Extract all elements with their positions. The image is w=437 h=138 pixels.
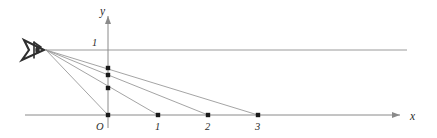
projected-point-x1	[106, 86, 110, 90]
ray-to-x1	[46, 50, 158, 115]
x-axis-label: x	[409, 110, 416, 122]
figure-canvas: y x 1 O 1 2 3	[0, 0, 437, 138]
x-tick-label-3: 3	[254, 121, 260, 132]
x-tick-label-2: 2	[205, 121, 211, 132]
y-axis-arrowhead	[105, 16, 111, 24]
origin-label: O	[96, 121, 104, 132]
x-tick-label-1: 1	[155, 121, 160, 132]
point-x3	[256, 113, 260, 117]
y-axis-label: y	[99, 5, 106, 18]
point-x2	[206, 113, 210, 117]
ray-to-x3	[46, 50, 258, 115]
perspective-projection-figure: y x 1 O 1 2 3	[0, 0, 437, 138]
point-x1	[156, 113, 160, 117]
projected-point-x3	[106, 66, 110, 70]
point-origin	[106, 113, 110, 117]
x-axis-arrowhead	[392, 112, 400, 118]
ray-to-x2	[46, 50, 208, 115]
eye-icon	[22, 40, 44, 60]
projected-point-x2	[106, 73, 110, 77]
y-tick-label-1: 1	[92, 37, 97, 48]
